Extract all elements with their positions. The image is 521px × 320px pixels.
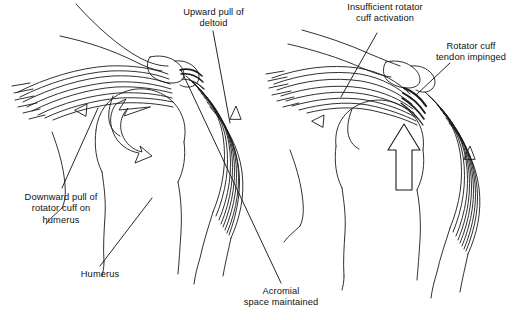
label-insufficient-rotator-cuff-activation: Insufficient rotator cuff activation — [322, 2, 448, 25]
label-downward-pull-of-rotator-cuff: Downward pull of rotator cuff on humerus — [2, 192, 120, 226]
leader-downward-pull — [62, 108, 98, 188]
right-panel-artwork — [266, 30, 480, 298]
label-upward-pull-of-deltoid: Upward pull of deltoid — [157, 7, 270, 30]
label-rotator-cuff-tendon-impinged: Rotator cuff tendon impinged — [421, 41, 521, 64]
label-humerus: Humerus — [58, 269, 142, 280]
anatomy-figure: Upward pull of deltoid Downward pull of … — [0, 0, 521, 320]
leader-acromial-space — [181, 70, 281, 283]
left-panel-artwork — [12, 4, 243, 284]
label-acromial-space-maintained: Acromial space maintained — [217, 286, 345, 309]
leader-tendon-impinged — [416, 63, 450, 95]
leader-lines — [62, 31, 450, 283]
